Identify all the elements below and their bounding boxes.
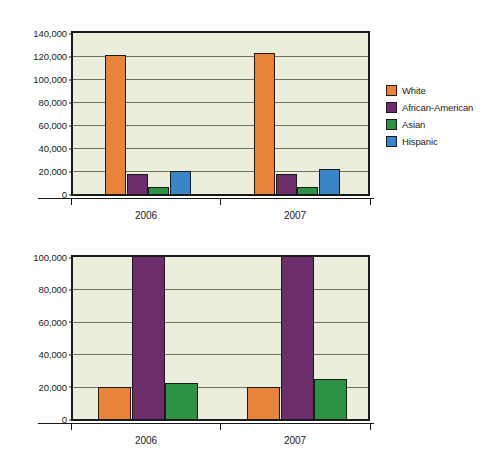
bar: [281, 257, 314, 419]
gridline: [73, 289, 368, 290]
legend-color-swatch-icon: [386, 136, 397, 147]
x-tick-mark-bottom-mid: [220, 423, 221, 430]
x-tick-mark-top-mid: [220, 198, 221, 205]
gridline: [73, 354, 368, 355]
chart-bottom: 020,00040,00060,00080,000100,000 2006 20…: [0, 230, 491, 461]
bar: [132, 257, 165, 419]
x-tick-mark-bottom-right: [370, 423, 371, 430]
plot-area-bottom: 020,00040,00060,00080,000100,000: [71, 255, 370, 421]
y-axis-tick-label: 20,000: [39, 381, 73, 392]
legend-color-swatch-icon: [386, 85, 397, 96]
y-axis-tick-label: 80,000: [39, 284, 73, 295]
y-axis-tick-label: 40,000: [39, 143, 73, 154]
y-axis-tick-label: 100,000: [33, 74, 73, 85]
bar: [319, 169, 340, 194]
bar: [276, 174, 297, 194]
y-axis-tick-label: 100,000: [33, 252, 73, 263]
legend-top: WhiteAfrican-AmericanAsianHispanic: [386, 84, 473, 152]
legend-item-label: Hispanic: [402, 136, 438, 147]
chart-page: 020,00040,00060,00080,000100,000120,0001…: [0, 0, 491, 461]
legend-item[interactable]: African-American: [386, 101, 473, 113]
x-tick-mark-top-right: [370, 198, 371, 205]
x-axis-line-top: [38, 198, 374, 199]
y-axis-tick-label: 60,000: [39, 120, 73, 131]
bar: [105, 55, 126, 194]
y-axis-tick-label: 80,000: [39, 97, 73, 108]
x-axis-label-2007-top: 2007: [284, 210, 306, 221]
x-axis-label-2006-top: 2006: [135, 210, 157, 221]
legend-item[interactable]: Asian: [386, 118, 473, 130]
x-axis-line-bottom: [38, 423, 374, 424]
y-axis-tick-label: 60,000: [39, 316, 73, 327]
x-axis-label-2007-bottom: 2007: [284, 435, 306, 446]
bar: [314, 379, 347, 419]
legend-color-swatch-icon: [386, 102, 397, 113]
bar: [254, 53, 275, 194]
legend-item-label: Asian: [402, 119, 425, 130]
legend-item-label: White: [402, 85, 426, 96]
legend-item[interactable]: Hispanic: [386, 135, 473, 147]
bar: [98, 387, 131, 419]
bar: [165, 383, 198, 419]
legend-item[interactable]: White: [386, 84, 473, 96]
chart-top: 020,00040,00060,00080,000100,000120,0001…: [0, 0, 491, 230]
y-axis-tick-label: 40,000: [39, 349, 73, 360]
plot-area-top: 020,00040,00060,00080,000100,000120,0001…: [71, 31, 370, 196]
bar: [148, 187, 169, 194]
y-axis-tick-label: 140,000: [33, 28, 73, 39]
legend-color-swatch-icon: [386, 119, 397, 130]
x-axis-label-2006-bottom: 2006: [135, 435, 157, 446]
bar: [127, 174, 148, 194]
bar: [247, 387, 280, 419]
bar: [170, 171, 191, 194]
legend-item-label: African-American: [402, 102, 473, 113]
x-tick-mark-bottom-left: [71, 423, 72, 430]
bar: [297, 187, 318, 194]
y-axis-tick-label: 120,000: [33, 51, 73, 62]
x-tick-mark-top-left: [71, 198, 72, 205]
gridline: [73, 322, 368, 323]
y-axis-tick-label: 20,000: [39, 166, 73, 177]
